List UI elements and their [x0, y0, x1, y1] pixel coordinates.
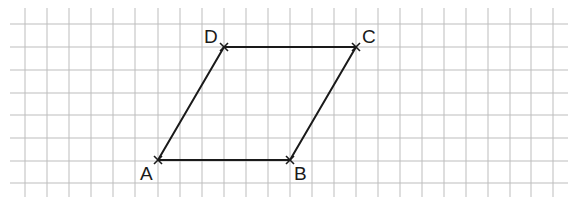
edge-bc [290, 47, 356, 160]
grid [10, 8, 568, 197]
vertex-marks [154, 43, 360, 164]
edge-da [158, 47, 224, 160]
vertex-label-b: B [294, 163, 307, 184]
parallelogram-edges [158, 47, 356, 160]
vertex-label-a: A [140, 163, 153, 184]
parallelogram-diagram: ABCD [0, 0, 579, 202]
diagram-canvas: ABCD [0, 0, 579, 202]
vertex-label-c: C [362, 26, 376, 47]
vertex-label-d: D [204, 26, 218, 47]
